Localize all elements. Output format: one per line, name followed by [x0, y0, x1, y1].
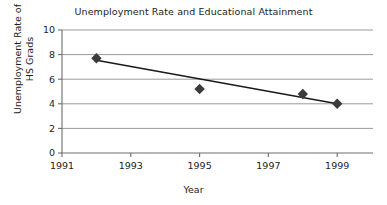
y-tick-label: 0 [49, 147, 55, 158]
gridlines [62, 30, 373, 128]
y-tick-label: 6 [49, 74, 55, 85]
x-axis-title: Year [0, 184, 387, 195]
data-point-marker [194, 84, 204, 94]
y-tick-label: 8 [49, 49, 55, 60]
x-tick-label: 1997 [256, 160, 280, 171]
plot-area: 0246810 19911993199519971999 [0, 0, 387, 205]
y-axis-ticks: 0246810 [43, 24, 62, 158]
y-tick-label: 2 [49, 123, 55, 134]
y-tick-label: 4 [49, 98, 55, 109]
chart-figure: Unemployment Rate and Educational Attain… [0, 0, 387, 205]
y-tick-label: 10 [43, 24, 55, 35]
x-tick-label: 1999 [325, 160, 349, 171]
x-tick-label: 1991 [50, 160, 74, 171]
x-tick-label: 1995 [188, 160, 212, 171]
data-markers [91, 53, 342, 109]
x-tick-label: 1993 [119, 160, 143, 171]
data-point-marker [332, 99, 342, 109]
x-axis-ticks: 19911993199519971999 [50, 153, 349, 171]
